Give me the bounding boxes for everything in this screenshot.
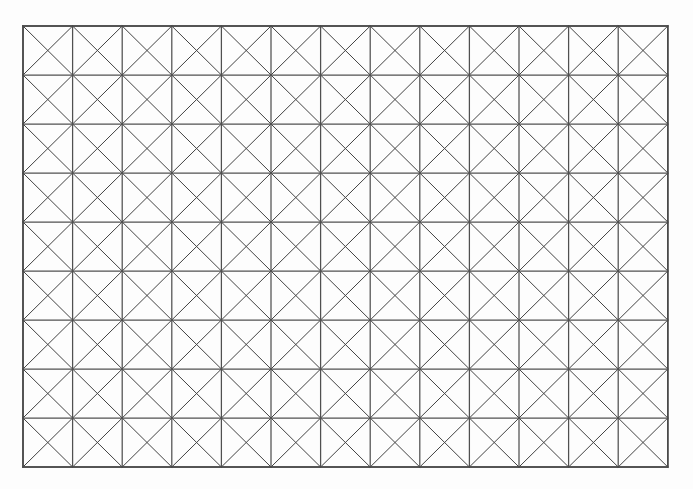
diagram-background [0, 0, 693, 489]
lattice-diagram [0, 0, 693, 489]
figure-canvas [0, 0, 693, 489]
